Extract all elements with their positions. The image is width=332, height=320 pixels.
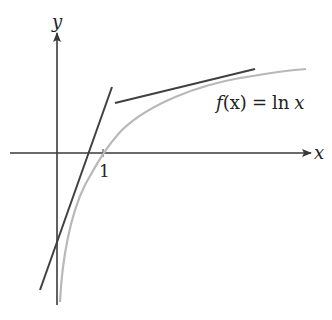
function-equals: =	[252, 92, 267, 113]
function-arg: (x)	[223, 92, 247, 113]
function-ln: ln	[272, 92, 290, 113]
y-axis-label: y	[51, 11, 63, 32]
ln-diagram: y x 1 f(x)=lnx	[0, 0, 332, 320]
x-axis-label: x	[314, 142, 324, 163]
function-var: x	[294, 92, 304, 113]
tick-label-1: 1	[99, 161, 110, 181]
function-label: f(x)=lnx	[214, 92, 304, 113]
tangent-line-steep	[40, 87, 112, 290]
ln-curve	[60, 69, 306, 302]
